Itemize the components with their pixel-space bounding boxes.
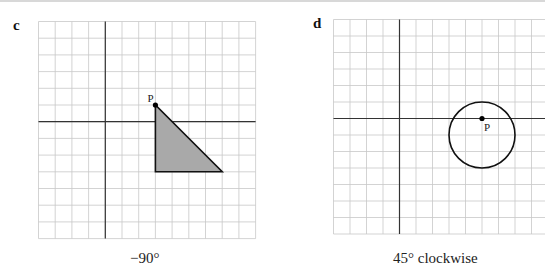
point-p-label: P [147,92,153,104]
diagram-canvas: P P [0,0,545,280]
point-p-label: P [484,121,490,133]
panel-c-grid: P [39,22,256,239]
point-p [153,102,158,107]
panel-d-grid: P [334,20,545,235]
